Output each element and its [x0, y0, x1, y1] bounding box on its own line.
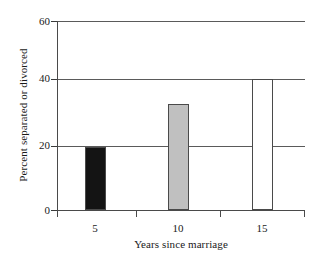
x-tick-label-5: 5: [75, 222, 115, 234]
x-tick-mark-1: [136, 211, 137, 217]
y-tick-20: 20: [26, 140, 50, 151]
y-axis-line: [57, 21, 58, 211]
x-tick-label-10: 10: [158, 222, 198, 234]
bar-15-years: [252, 79, 273, 210]
x-axis-title: Years since marriage: [57, 238, 305, 250]
y-tick-60: 60: [26, 16, 50, 27]
y-tick-40: 40: [26, 73, 50, 84]
x-tick-mark-left: [57, 211, 58, 217]
y-tick-label-0: 0: [28, 205, 50, 216]
x-tick-mark-right: [304, 211, 305, 217]
x-tick-mark-2: [220, 211, 221, 217]
y-tick-label-20: 20: [28, 140, 50, 151]
bar-5-years: [85, 147, 106, 210]
x-axis-line: [57, 210, 305, 211]
x-tick-label-15: 15: [242, 222, 282, 234]
y-tick-0: 0: [26, 205, 50, 216]
y-tick-label-40: 40: [28, 73, 50, 84]
bar-10-years: [168, 104, 189, 210]
bar-chart: Percent separated or divorced 60 40 20 0…: [0, 0, 319, 259]
y-tick-label-60: 60: [28, 16, 50, 27]
gridline-60: [57, 21, 305, 22]
y-axis-title: Percent separated or divorced: [16, 20, 30, 210]
